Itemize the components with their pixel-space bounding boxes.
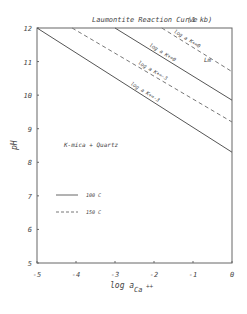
series-line [37, 28, 232, 152]
annotation-kmica-quartz: K-mica + Quartz [63, 141, 119, 148]
chart: Laumontite Reaction Curve (1 kb) 5678910… [0, 0, 247, 314]
y-tick-label: 9 [28, 126, 32, 134]
y-tick-label: 8 [28, 159, 32, 167]
x-axis-label-sub: Ca [134, 286, 142, 294]
x-tick-label: -4 [72, 271, 80, 279]
chart-subtitle: (1 kb) [187, 16, 212, 24]
x-tick-label: -2 [150, 271, 158, 279]
x-axis-label-main: log a [110, 281, 134, 290]
chart-title: Laumontite Reaction Curve [92, 16, 197, 24]
y-axis-label: pH [10, 140, 19, 151]
legend: 100 C 150 C [56, 192, 101, 215]
x-tick-label: -1 [189, 271, 197, 279]
y-tick-label: 5 [28, 260, 32, 268]
series-label: log a K+=0 [148, 42, 177, 64]
y-tick-label: 11 [24, 59, 32, 67]
x-axis-label-sup: ++ [146, 282, 154, 289]
series-line [162, 28, 232, 72]
series-lines: log a K+=-3log a K+=-3log a K+=0log a K+… [37, 28, 232, 152]
series-label: log a K+=0 [173, 28, 202, 50]
annotation-lm: Lm [204, 56, 212, 63]
y-tick-label: 10 [24, 92, 32, 100]
series-label: log a K+=-3 [137, 59, 169, 82]
x-tick-label: -5 [33, 271, 41, 279]
y-tick-label: 7 [28, 193, 33, 201]
legend-label-150c: 150 C [86, 209, 101, 215]
y-tick-label: 6 [28, 226, 32, 234]
legend-label-100c: 100 C [86, 192, 101, 198]
x-tick-label: 0 [230, 271, 234, 279]
x-axis: -5-4-3-2-10 [33, 261, 234, 279]
series-label: log a K+=-3 [129, 80, 161, 104]
y-tick-label: 12 [24, 25, 32, 33]
x-tick-label: -3 [111, 271, 119, 279]
